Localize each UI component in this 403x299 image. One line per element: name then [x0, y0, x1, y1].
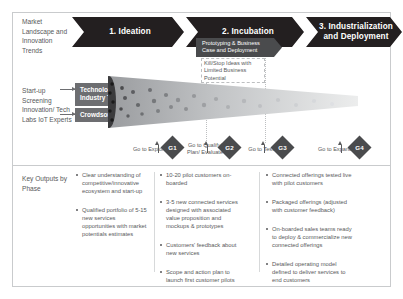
outputs-list-2: 10-20 pilot customers on-boarded 3-5 new…: [160, 172, 240, 285]
section-divider: [12, 165, 391, 166]
gate-marker-g3[interactable]: G3: [270, 135, 294, 159]
phase-label-3: 3. Industrialization and Deployment: [314, 22, 398, 42]
outputs-list-1: Clear understanding of competitive/innov…: [76, 172, 148, 239]
funnel-svg: [108, 76, 358, 128]
outputs-column-industrialization: Connected offerings tested live with pil…: [266, 172, 352, 296]
gate-arrow-head-3: [261, 141, 265, 145]
gate-arrow-head-4: [338, 141, 342, 145]
gate-code-g4: G4: [351, 139, 368, 156]
list-item: 10-20 pilot customers on-boarded: [160, 172, 240, 188]
list-item: Packaged offerings (adjusted with custom…: [266, 199, 352, 215]
outputs-column-incubation: 10-20 pilot customers on-boarded 3-5 new…: [160, 172, 240, 296]
label-key-outputs: Key Outputs by Phase: [22, 174, 76, 193]
list-item: Customers' feedback about new services: [160, 242, 240, 258]
list-item: 3-5 new connected services designed with…: [160, 199, 240, 231]
gate-marker-g2[interactable]: G2: [217, 135, 241, 159]
gate-marker-g1[interactable]: G1: [160, 135, 184, 159]
outputs-divider-1: [154, 172, 155, 272]
label-startup-screening: Start-up Screening Innovation/ Tech Labs…: [22, 86, 76, 124]
gate-code-g3: G3: [274, 139, 291, 156]
phase-chevron-ideation: 1. Ideation: [72, 17, 184, 47]
funnel-graphic: [108, 76, 358, 128]
gate-arrow-head-1: [155, 141, 159, 145]
list-item: Qualified portfolio of 5-15 new services…: [76, 207, 148, 239]
outputs-list-3: Connected offerings tested live with pil…: [266, 172, 352, 285]
outputs-column-ideation: Clear understanding of competitive/innov…: [76, 172, 148, 250]
phase-chevron-industrialization: 3. Industrialization and Deployment: [306, 17, 402, 47]
list-item: Detailed operating model defined to deli…: [266, 261, 352, 285]
gate-row: Go to Explore G1 Go to Qualify/ Plan/ Ev…: [108, 133, 378, 165]
phase-label-1: 1. Ideation: [109, 27, 151, 37]
callout-prototyping: Prototyping & Business Case and Deployme…: [196, 38, 282, 57]
phase-label-2: 2. Incubation: [222, 27, 274, 37]
label-market-landscape: Market Landscape and Innovation Trends: [22, 17, 74, 55]
list-item: Clear understanding of competitive/innov…: [76, 172, 148, 196]
gate-marker-g4[interactable]: G4: [347, 135, 371, 159]
list-item: Connected offerings tested live with pil…: [266, 172, 352, 188]
outputs-divider-2: [259, 172, 260, 272]
list-item: On-boarded sales teams ready to deploy &…: [266, 226, 352, 250]
gate-code-g2: G2: [221, 139, 238, 156]
diagram-canvas: Market Landscape and Innovation Trends S…: [0, 0, 403, 299]
gate-code-g1: G1: [164, 139, 181, 156]
list-item: Scope and action plan to launch first cu…: [160, 269, 240, 285]
